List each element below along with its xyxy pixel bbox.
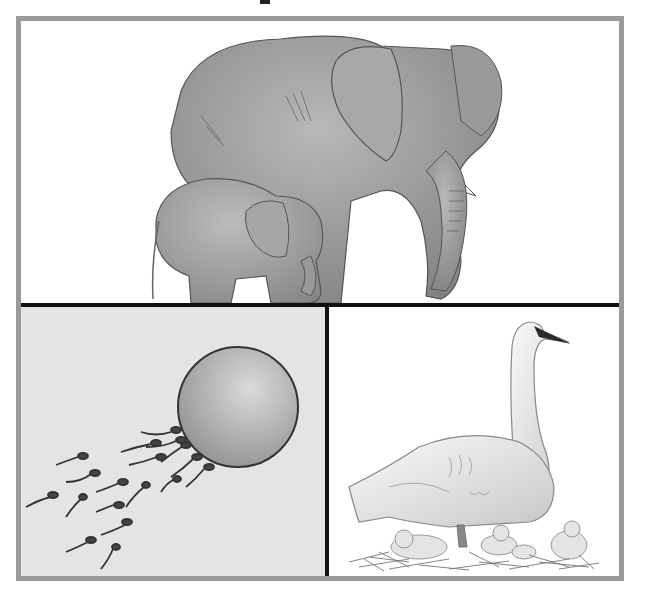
panel-swan — [329, 307, 619, 576]
sperm-cells — [26, 427, 214, 569]
panel-elephants — [21, 21, 619, 303]
egg-and-sperm-icon — [21, 307, 325, 576]
swan-icon — [329, 307, 619, 576]
elephant-icon — [21, 21, 619, 303]
egg-cell — [178, 347, 298, 467]
figure-frame — [16, 16, 624, 581]
top-crop-mark — [260, 0, 270, 4]
panel-fertilization — [21, 307, 325, 576]
